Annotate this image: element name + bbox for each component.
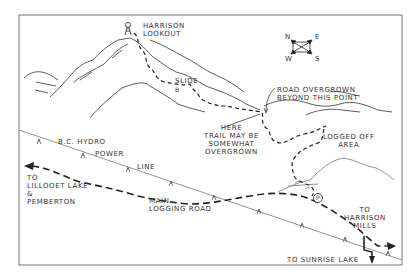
compass-icon	[291, 40, 312, 54]
compass-e: E	[315, 33, 320, 41]
label-power: POWER	[95, 150, 124, 158]
label-slide: SLIDE	[175, 77, 198, 85]
label-line: LINE	[137, 163, 155, 171]
label-trail-overgrown: HERE TRAIL MAY BE SOMEWHAT OVERGROWN	[204, 124, 259, 156]
lookout-tower-icon	[125, 23, 131, 36]
label-harrison-lookout: HARRISON LOOKOUT	[143, 22, 185, 38]
arrow-icon	[24, 162, 34, 170]
arrow-icon	[387, 242, 396, 250]
compass-s: S	[315, 55, 320, 63]
terrain-ridges	[24, 38, 394, 192]
slide-marker: B	[175, 86, 180, 94]
compass-n: N	[285, 33, 291, 41]
compass-w: W	[285, 55, 293, 63]
arrow-icon	[369, 256, 375, 264]
parking-label: P	[316, 194, 320, 202]
label-lillooet-lake: TO LILLOOET LAKE & PEMBERTON	[27, 174, 88, 206]
label-harrison-mills: TO HARRISON MILLS	[344, 206, 386, 230]
label-logged-off-area: LOGGED OFF AREA	[323, 133, 375, 149]
label-bc-hydro: B.C. HYDRO	[58, 138, 106, 146]
trail	[134, 33, 326, 196]
arrow-icon	[266, 88, 275, 112]
power-pylon-icon	[37, 139, 390, 256]
label-road-overgrown: ROAD OVERGROWN BEYOND THIS POINT	[277, 86, 358, 102]
label-main-logging-road: MAIN LOGGING ROAD	[149, 197, 212, 213]
label-sunrise-lake: TO SUNRISE LAKE	[287, 256, 359, 264]
